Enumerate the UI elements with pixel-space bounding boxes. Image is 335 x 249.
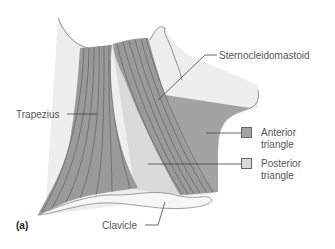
neck-anatomy-illustration: [0, 0, 335, 249]
sternocleidomastoid-label: Sternocleidomastoid: [219, 50, 310, 61]
clavicle-label: Clavicle: [102, 220, 137, 231]
trapezius-label: Trapezius: [16, 109, 60, 120]
panel-label: (a): [16, 220, 28, 231]
anterior-triangle-label-line1: Anterior: [261, 127, 296, 138]
posterior-triangle-swatch: [241, 158, 252, 169]
anterior-triangle-swatch: [241, 127, 252, 138]
posterior-triangle-label-line2: triangle: [261, 170, 294, 181]
posterior-triangle-label-line1: Posterior: [261, 158, 301, 169]
anterior-triangle-label-line2: triangle: [261, 139, 294, 150]
